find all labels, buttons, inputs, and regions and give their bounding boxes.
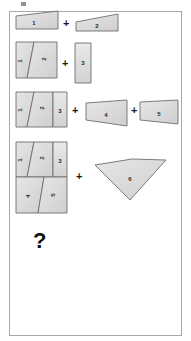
plus-operator-row3-a: + — [72, 105, 78, 116]
row-3-group: 1 2 3 4 5 — [16, 92, 178, 127]
row-4-group: 1 2 3 4 5 6 — [16, 142, 166, 213]
plus-operator-row3-b: + — [131, 105, 137, 116]
plus-operator-row2: + — [62, 58, 68, 69]
puzzle-page: 1 2 1 2 3 1 2 3 4 5 — [0, 0, 191, 341]
puzzle-canvas: 1 2 1 2 3 1 2 3 4 5 — [0, 0, 191, 341]
row-2-group: 1 2 3 — [16, 42, 91, 83]
piece-1-row1 — [16, 11, 58, 29]
question-mark-result: ? — [33, 228, 46, 254]
plus-operator-row1: + — [63, 18, 69, 29]
plus-operator-row4: + — [76, 171, 82, 182]
